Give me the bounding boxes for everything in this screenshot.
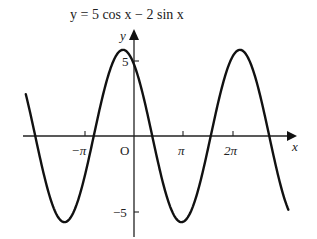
- graph-canvas: y = 5 cos x − 2 sin x x y −π O π 2π 5 −5: [0, 0, 317, 239]
- graph-title: y = 5 cos x − 2 sin x: [70, 7, 184, 22]
- y-axis-label: y: [118, 28, 126, 43]
- tick-label-neg-pi: −π: [71, 143, 87, 158]
- tick-label-5: 5: [122, 54, 129, 69]
- x-axis-label: x: [291, 139, 298, 154]
- tick-label-pi: π: [178, 143, 185, 158]
- origin-label: O: [120, 143, 129, 158]
- tick-label-2pi: 2π: [224, 143, 238, 158]
- y-axis-arrow-icon: [129, 29, 139, 40]
- tick-label-neg5: −5: [113, 205, 127, 220]
